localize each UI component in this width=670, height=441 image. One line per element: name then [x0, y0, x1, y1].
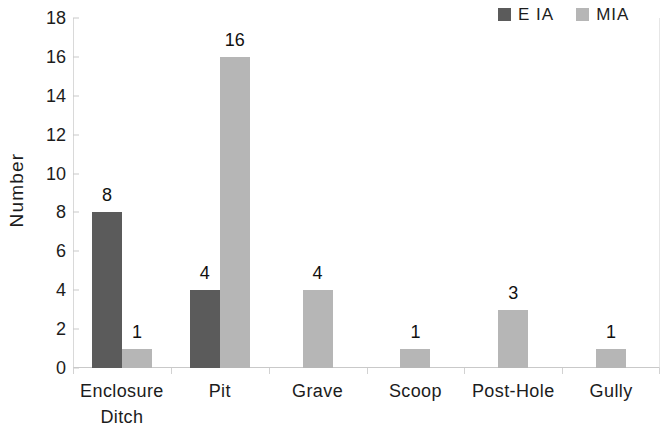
bar-mia[interactable]: [596, 349, 626, 368]
x-axis-label-enclosure-ditch: Enclosure Ditch: [80, 378, 164, 430]
bar-eia[interactable]: [92, 212, 122, 368]
y-tick-label: 0: [13, 359, 66, 377]
y-tick-mark: [73, 56, 79, 57]
y-tick-mark: [73, 173, 79, 174]
bar-mia[interactable]: [498, 310, 528, 368]
y-tick-label: 10: [13, 165, 66, 183]
y-tick-label: 6: [13, 242, 66, 260]
bar-value-label: 1: [606, 323, 616, 341]
bar-mia[interactable]: [303, 290, 333, 368]
y-tick-label: 12: [13, 126, 66, 144]
y-tick-mark: [73, 134, 79, 135]
x-axis-category-labels: Enclosure DitchPitGraveScoopPost-HoleGul…: [73, 378, 660, 441]
y-tick-label: 2: [13, 320, 66, 338]
y-tick-label: 14: [13, 87, 66, 105]
y-tick-mark: [73, 18, 79, 19]
x-axis-label-gully: Gully: [590, 378, 633, 404]
x-tick-mark: [562, 368, 563, 374]
bar-value-label: 16: [225, 31, 245, 49]
x-tick-mark: [269, 368, 270, 374]
y-tick-mark: [73, 290, 79, 291]
y-tick-label: 8: [13, 203, 66, 221]
y-tick-mark: [73, 329, 79, 330]
bar-value-label: 1: [410, 323, 420, 341]
y-tick-label: 16: [13, 48, 66, 66]
bar-value-label: 4: [313, 264, 323, 282]
x-axis-label-grave: Grave: [292, 378, 343, 404]
bar-mia[interactable]: [220, 57, 250, 368]
plot-frame: [73, 18, 660, 368]
y-tick-mark: [73, 95, 79, 96]
y-tick-mark: [73, 251, 79, 252]
x-axis-label-post-hole: Post-Hole: [472, 378, 555, 404]
bar-value-label: 3: [508, 284, 518, 302]
bar-chart: E IA MIA Number 024681012141618 81416413…: [0, 0, 670, 441]
x-tick-mark: [659, 368, 660, 374]
bar-value-label: 1: [132, 323, 142, 341]
bar-value-label: 8: [102, 186, 112, 204]
plot-area: 024681012141618 814164131: [73, 18, 660, 368]
bar-eia[interactable]: [190, 290, 220, 368]
x-axis-label-scoop: Scoop: [389, 378, 442, 404]
x-tick-mark: [171, 368, 172, 374]
x-tick-mark: [464, 368, 465, 374]
bar-mia[interactable]: [400, 349, 430, 368]
x-axis-label-pit: Pit: [209, 378, 231, 404]
bar-value-label: 4: [200, 264, 210, 282]
x-tick-mark: [367, 368, 368, 374]
y-tick-label: 4: [13, 281, 66, 299]
x-tick-mark: [73, 368, 74, 374]
y-tick-mark: [73, 212, 79, 213]
bar-mia[interactable]: [122, 349, 152, 368]
y-tick-label: 18: [13, 9, 66, 27]
